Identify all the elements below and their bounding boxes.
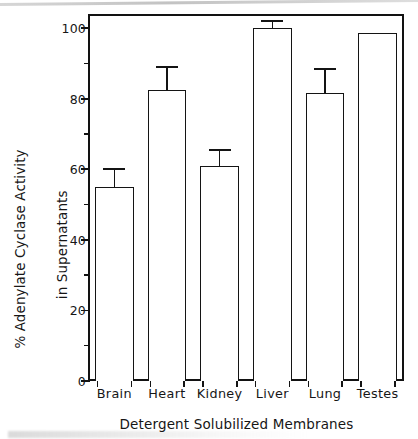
x-category-label-brain: Brain <box>97 386 132 401</box>
plot-area: 020406080100 <box>88 14 404 381</box>
y-tick-label: 60 <box>46 162 86 177</box>
error-bar-cap-liver <box>261 20 283 22</box>
y-axis-title-line-1: % Adenylate Cyclase Activity <box>12 149 28 348</box>
x-category-label-lung: Lung <box>309 386 342 401</box>
error-bar-stem-heart <box>166 67 168 90</box>
bar-lung <box>306 93 345 381</box>
y-tick-label: 80 <box>46 91 86 106</box>
y-tick-minor <box>84 204 90 205</box>
y-tick-label: 0 <box>46 374 86 389</box>
y-tick-label: 100 <box>46 21 86 36</box>
error-bar-cap-brain <box>103 168 125 170</box>
x-category-label-heart: Heart <box>148 386 185 401</box>
error-bar-stem-brain <box>114 169 116 187</box>
x-tick <box>289 381 290 387</box>
x-category-label-liver: Liver <box>256 386 289 401</box>
bar-brain <box>95 187 134 381</box>
bar-liver <box>253 28 292 381</box>
error-bar-cap-heart <box>156 66 178 68</box>
x-category-label-testes: Testes <box>357 386 399 401</box>
y-axis-title-line-2: in Supernatants <box>52 108 73 408</box>
error-bar-cap-kidney <box>209 149 231 151</box>
y-tick-minor <box>84 63 90 64</box>
bar-testes <box>358 33 397 381</box>
plot-frame-right <box>402 14 404 381</box>
y-tick-minor <box>84 345 90 346</box>
plot-frame-top <box>88 14 404 16</box>
error-bar-stem-liver <box>272 21 274 28</box>
y-axis-line <box>88 14 90 381</box>
x-category-label-kidney: Kidney <box>197 386 243 401</box>
bar-chart-figure: % Adenylate Cyclase Activity in Supernat… <box>0 0 418 439</box>
y-tick-minor <box>84 133 90 134</box>
y-tick-label: 40 <box>46 232 86 247</box>
bar-kidney <box>200 166 239 381</box>
x-tick <box>341 381 342 387</box>
figure-alt-text: % Adenylate Cyclase Activity in Supernat… <box>0 0 1 1</box>
y-tick-minor <box>84 274 90 275</box>
error-bar-stem-kidney <box>219 150 221 166</box>
error-bar-cap-lung <box>314 68 336 70</box>
bar-heart <box>148 90 187 381</box>
x-axis-line <box>88 379 404 381</box>
x-axis-title: Detergent Solubilized Membranes <box>64 416 409 432</box>
y-tick-label: 20 <box>46 303 86 318</box>
error-bar-stem-lung <box>324 69 326 94</box>
